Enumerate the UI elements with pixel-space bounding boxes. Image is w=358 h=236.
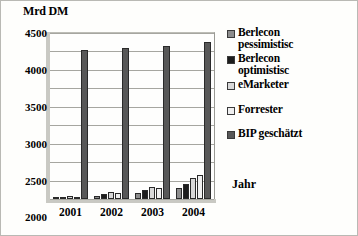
bar	[156, 188, 162, 199]
gridline: 0	[50, 199, 214, 200]
legend-swatch-icon	[227, 107, 235, 115]
y-axis-tick-label: 2500	[25, 175, 47, 186]
y-axis-tick-label: 4000	[25, 64, 47, 75]
bar	[142, 190, 148, 199]
bar	[81, 50, 88, 199]
bar	[190, 178, 196, 199]
legend-swatch-icon	[227, 82, 235, 90]
y-axis-title: Mrd DM	[23, 4, 68, 19]
bar-group: 2002	[91, 33, 132, 199]
bar	[149, 187, 155, 199]
chart-legend: BerleconpessimistiscBerleconoptimistisce…	[227, 27, 357, 143]
bar	[67, 196, 73, 199]
x-axis-tick-label: 2004	[182, 206, 205, 218]
legend-item-label: Berleconpessimistisc	[238, 27, 293, 50]
legend-swatch-icon	[227, 56, 235, 64]
legend-item-label: Berleconoptimistisc	[238, 53, 289, 76]
bar	[115, 193, 121, 199]
legend-item: Berleconoptimistisc	[227, 53, 357, 76]
legend-item: Forrester	[227, 104, 357, 116]
legend-swatch-icon	[227, 30, 235, 38]
legend-item: Berleconpessimistisc	[227, 27, 357, 50]
bar	[183, 184, 189, 199]
bar	[53, 197, 59, 199]
bar	[122, 48, 129, 199]
plot-area: 450040003500300025002000150010005000 200…	[49, 32, 215, 200]
x-axis-tick-label: 2003	[141, 206, 164, 218]
y-axis-tick-label: 3000	[25, 138, 47, 149]
bar	[204, 42, 211, 199]
x-axis-tick-label: 2002	[100, 206, 123, 218]
chart-frame: Mrd DM 450040003500300025002000150010005…	[0, 0, 358, 236]
bar	[176, 188, 182, 199]
bar	[94, 196, 100, 199]
legend-item-label: BIP geschätzt	[238, 128, 302, 140]
legend-item-label: eMarketer	[238, 79, 289, 91]
x-axis-tick-label: 2001	[59, 206, 82, 218]
bar	[108, 192, 114, 199]
legend-item: BIP geschätzt	[227, 128, 357, 140]
y-axis-tick-label: 4500	[25, 28, 47, 39]
legend-item-label: Forrester	[238, 104, 283, 116]
bar	[135, 193, 141, 199]
bar	[60, 197, 66, 199]
bar	[163, 46, 170, 199]
bar	[197, 175, 203, 199]
bar	[101, 194, 107, 199]
y-axis-tick-label: 3500	[25, 101, 47, 112]
y-axis-tick-label: 2000	[25, 212, 47, 223]
legend-swatch-icon	[227, 131, 235, 139]
bar	[74, 197, 80, 199]
x-axis-title: Jahr	[232, 177, 256, 192]
bar-group: 2001	[50, 33, 91, 199]
legend-item: eMarketer	[227, 79, 357, 91]
bar-group: 2003	[132, 33, 173, 199]
bar-group: 2004	[173, 33, 214, 199]
